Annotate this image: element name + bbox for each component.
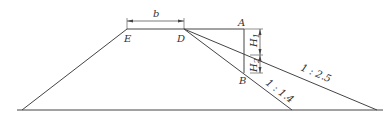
label-b: b [153, 8, 159, 19]
embankment-diagram: b E D A B H1 H2 1 : 2.5 1 : 1.4 [0, 0, 392, 121]
label-D: D [176, 33, 185, 44]
label-B: B [238, 75, 246, 86]
label-H2: H2 [248, 58, 261, 73]
label-slope-2.5: 1 : 2.5 [299, 62, 333, 85]
label-A: A [237, 17, 245, 28]
left-slope [22, 29, 127, 110]
label-E: E [123, 33, 132, 44]
slope-1-1.4 [184, 29, 292, 110]
label-H1: H1 [248, 33, 261, 48]
